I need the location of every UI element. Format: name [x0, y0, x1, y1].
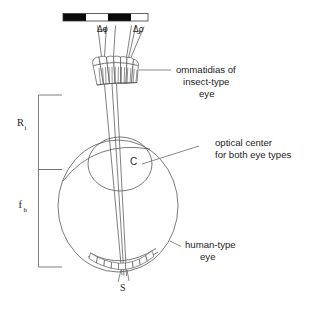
callout-ommatidia: ommatidias of insect-type eye: [176, 64, 236, 99]
retina-cell-1: [89, 253, 98, 263]
eyeball-outline: [58, 140, 178, 272]
grating-segment-white-1: [86, 14, 108, 22]
ommatidia-label-line3: eye: [199, 88, 214, 99]
insect-radius-subscript: i: [25, 124, 27, 131]
rhabdom-rod-9: [124, 67, 125, 83]
retina-sample-marker: S: [120, 282, 126, 293]
human-focal-symbol: f: [19, 199, 23, 210]
rhabdom-rod-3: [106, 67, 107, 84]
cone-right-edge-1: [127, 26, 132, 58]
human-eye-globe: [58, 137, 178, 272]
retina-sample-leader-2: [127, 270, 129, 281]
ray-bundle: [105, 84, 127, 276]
diagram-canvas: Δφ Δρ: [0, 0, 312, 309]
grating-segment-white-2: [131, 14, 148, 22]
human-eye-label-line1: human-type: [185, 239, 236, 250]
dimension-label-human-focal: f h: [19, 199, 28, 213]
optical-center-label-line2: for both eye types: [215, 149, 291, 160]
retina-cells: [89, 251, 154, 270]
retina-cell-6: [126, 262, 134, 270]
bracket-insect-radius: [39, 95, 63, 170]
bracket-human-focal: [39, 170, 63, 268]
ommatidia-label-line2: insect-type: [183, 76, 229, 87]
retina-cell-4: [111, 262, 118, 270]
optical-center-label-line1: optical center: [215, 137, 273, 148]
cone-mid-axis: [114, 26, 116, 57]
eye-optics-diagram: Δφ Δρ: [0, 0, 312, 309]
insect-radius-symbol: R: [17, 117, 24, 128]
retina-cell-3: [104, 260, 112, 268]
human-eye-label-line2: eye: [200, 251, 215, 262]
ommatidia-label-line1: ommatidias of: [176, 64, 236, 75]
leader-human-eye: [170, 241, 181, 247]
human-focal-subscript: h: [24, 206, 28, 213]
dimension-label-insect-radius: R i: [17, 117, 27, 131]
ommatidia-array: [93, 56, 139, 85]
grating-segment-black-2: [108, 14, 131, 22]
dimension-brackets: [39, 95, 63, 267]
callout-human-eye: human-type eye: [185, 239, 236, 262]
grating-target: [63, 14, 148, 22]
callout-leaders: [139, 70, 199, 247]
ray-left: [105, 85, 123, 276]
grating-segment-black-1: [63, 14, 86, 22]
callout-optical-center: optical center for both eye types: [215, 137, 291, 160]
ommatidium-4: [114, 56, 121, 83]
angle-label-delta-rho: Δρ: [133, 24, 144, 34]
angle-label-delta-phi: Δφ: [97, 24, 108, 34]
retina-cell-5: [119, 263, 126, 270]
optical-center-marker: C: [130, 156, 137, 167]
